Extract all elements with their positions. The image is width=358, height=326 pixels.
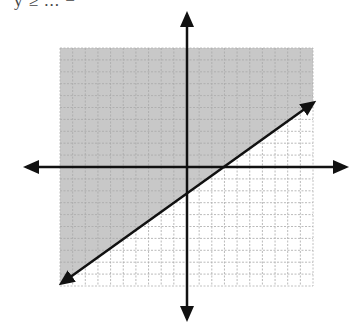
coordinate-plane [0, 0, 358, 326]
